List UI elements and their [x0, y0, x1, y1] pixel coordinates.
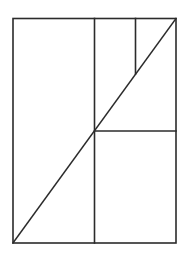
- geometric-diagram: [0, 0, 188, 258]
- divider-lines: [13, 19, 176, 244]
